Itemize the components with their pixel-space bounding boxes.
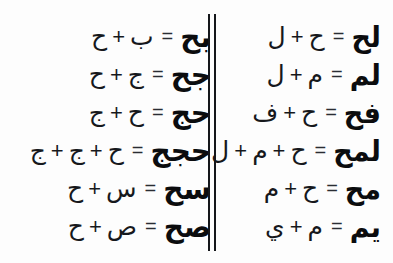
equals-sign: =	[138, 177, 164, 200]
equals-sign: =	[125, 139, 151, 162]
operand-letter: ح	[90, 24, 108, 49]
operand-letter: ب	[129, 24, 155, 49]
table-row: بح = ب + ح	[20, 18, 213, 56]
operand-letter: ح	[107, 138, 125, 163]
table-row: لح = ح + ل	[221, 18, 387, 56]
equals-sign: =	[155, 25, 181, 48]
plus-sign: +	[286, 64, 307, 86]
operand-group: م + ي	[264, 214, 324, 239]
equals-sign: =	[308, 139, 334, 162]
operand-letter: ج	[88, 100, 106, 125]
operand-letter: ج	[68, 138, 86, 163]
operand-letter: ل	[210, 138, 230, 163]
equals-sign: =	[324, 63, 350, 86]
ligature-result: فح	[344, 98, 381, 127]
plus-sign: +	[85, 216, 106, 238]
ligature-result: جح	[171, 60, 211, 90]
ligature-table-figure: لح = ح + ل لم = م + ل فح =	[0, 0, 393, 263]
plus-sign: +	[286, 216, 307, 238]
operand-letter: ل	[265, 62, 285, 87]
plus-sign: +	[86, 140, 107, 162]
right-column: لح = ح + ل لم = م + ل فح =	[217, 0, 393, 263]
operand-letter: ح	[67, 214, 85, 239]
operand-letter: ل	[267, 24, 287, 49]
table-row: فح = ح + ف	[221, 94, 387, 132]
operand-letter: م	[263, 176, 280, 201]
table-row: لم = م + ل	[221, 56, 387, 94]
equals-sign: =	[324, 215, 350, 238]
plus-sign: +	[280, 178, 301, 200]
operand-letter: ح	[127, 100, 145, 125]
ligature-result: لمح	[333, 136, 381, 165]
table-row: سح = س + ح	[20, 170, 213, 208]
operand-group: م + ل	[265, 62, 324, 87]
ligature-result: حج	[171, 98, 211, 128]
plus-sign: +	[108, 26, 129, 48]
operand-group: ح + ج	[88, 100, 145, 125]
operand-letter: ح	[66, 176, 84, 201]
ligature-result: مح	[345, 174, 381, 203]
ligature-result: صح	[164, 212, 211, 242]
operand-letter: ح	[301, 176, 319, 201]
plus-sign: +	[106, 64, 127, 86]
operand-group: ب + ح	[90, 24, 155, 49]
plus-sign: +	[106, 102, 127, 124]
table-body: لح = ح + ل لم = م + ل فح =	[0, 0, 393, 263]
equals-sign: =	[138, 215, 164, 238]
operand-group: ح + م	[263, 176, 319, 201]
operand-group: ص + ح	[67, 214, 138, 239]
operand-letter: ف	[251, 100, 279, 125]
table-row: جح = ج + ح	[20, 56, 213, 94]
table-row: يم = م + ي	[221, 208, 387, 246]
operand-group: ح + ل	[267, 24, 326, 49]
ligature-result: لح	[351, 22, 381, 51]
equals-sign: =	[318, 101, 344, 124]
operand-letter: ج	[29, 138, 47, 163]
plus-sign: +	[84, 178, 105, 200]
operand-letter: ص	[106, 214, 138, 239]
plus-sign: +	[287, 26, 308, 48]
table-row: لمح = ح + م + ل	[221, 132, 387, 170]
equals-sign: =	[319, 177, 345, 200]
ligature-result: بح	[180, 22, 211, 52]
operand-letter: م	[307, 62, 324, 87]
operand-letter: م	[251, 138, 268, 163]
operand-letter: ح	[308, 24, 326, 49]
table-row: حج = ح + ج	[20, 94, 213, 132]
operand-group: ح + ج + ج	[29, 138, 125, 163]
table-row: مح = ح + م	[221, 170, 387, 208]
operand-group: ح + م + ل	[210, 138, 308, 163]
ligature-result: حجج	[150, 136, 211, 166]
left-column: بح = ب + ح جح = ج + ح حج =	[14, 0, 217, 263]
operand-group: ج + ح	[88, 62, 145, 87]
equals-sign: =	[145, 63, 171, 86]
equals-sign: =	[326, 25, 352, 48]
operand-letter: ح	[300, 100, 318, 125]
plus-sign: +	[230, 140, 251, 162]
operand-letter: ح	[88, 62, 106, 87]
table-row: صح = ص + ح	[20, 208, 213, 246]
equals-sign: =	[145, 101, 171, 124]
table-row: حجج = ح + ج + ج	[20, 132, 213, 170]
plus-sign: +	[269, 140, 290, 162]
operand-letter: س	[105, 176, 138, 201]
plus-sign: +	[279, 102, 300, 124]
ligature-result: يم	[350, 212, 381, 241]
ligature-result: سح	[163, 174, 211, 204]
operand-group: س + ح	[66, 176, 138, 201]
ligature-result: لم	[350, 60, 381, 89]
operand-letter: ح	[289, 138, 307, 163]
operand-group: ح + ف	[251, 100, 318, 125]
operand-letter: ي	[264, 214, 286, 239]
operand-letter: م	[307, 214, 324, 239]
operand-letter: ج	[127, 62, 145, 87]
plus-sign: +	[47, 140, 68, 162]
